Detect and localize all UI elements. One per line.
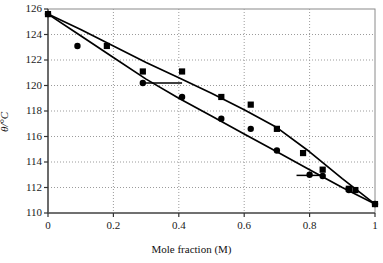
data-point-circle [218,115,224,121]
plot-frame [48,9,375,213]
data-point-circle [140,80,146,86]
data-point-square [140,68,146,74]
curve-lower-fit [48,14,375,204]
y-tick-label: 124 [8,28,42,40]
data-point-circle [179,94,185,100]
x-tick-label: 0.8 [290,219,330,231]
x-tick-label: 1 [355,219,383,231]
data-point-circle [248,126,254,132]
data-point-circle [372,201,378,207]
y-tick-label: 126 [8,2,42,14]
data-point-circle [319,173,325,179]
data-point-square [352,187,358,193]
curve-upper-fit [48,14,375,204]
data-point-square [274,126,280,132]
data-point-circle [45,11,51,17]
data-point-circle [306,172,312,178]
data-point-square [104,43,110,49]
data-point-circle [74,43,80,49]
data-point-square [300,150,306,156]
x-tick-label: 0.2 [93,219,133,231]
data-point-circle [274,147,280,153]
x-tick-label: 0.4 [159,219,199,231]
y-tick-label: 116 [8,130,42,142]
data-point-square [320,167,326,173]
y-tick-label: 120 [8,79,42,91]
y-tick-label: 112 [8,181,42,193]
y-axis-label: θ/°C [0,92,10,152]
data-point-square [218,94,224,100]
x-tick-label: 0.6 [224,219,264,231]
data-point-square [179,68,185,74]
y-tick-label: 118 [8,104,42,116]
data-point-circle [346,187,352,193]
x-tick-label: 0 [28,219,68,231]
y-tick-label: 114 [8,155,42,167]
y-tick-label: 110 [8,206,42,218]
x-axis-label: Mole fraction (M) [0,243,383,255]
data-point-square [248,102,254,108]
chart-figure: θ/°C Mole fraction (M) 11011211411611812… [0,0,383,263]
y-tick-label: 122 [8,53,42,65]
